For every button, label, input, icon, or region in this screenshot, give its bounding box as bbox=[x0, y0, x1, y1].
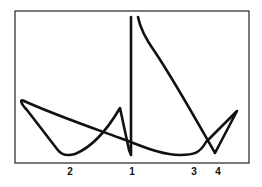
axis-label-4: 4 bbox=[215, 167, 221, 177]
axis-label-1: 1 bbox=[129, 167, 135, 177]
axis-label-2: 2 bbox=[67, 167, 73, 177]
main-curve bbox=[21, 17, 131, 155]
line-diagram bbox=[0, 0, 262, 187]
axis-label-3: 3 bbox=[191, 167, 197, 177]
